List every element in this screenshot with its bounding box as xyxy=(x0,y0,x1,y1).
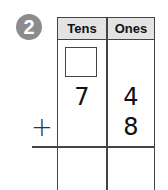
sum-ones-answer[interactable] xyxy=(107,157,155,187)
header-tens: Tens xyxy=(58,18,106,39)
top-ones-digit: 4 xyxy=(107,83,155,111)
place-value-table: Tens Ones 7 4 8 xyxy=(57,17,155,190)
sum-tens-answer[interactable] xyxy=(58,157,106,187)
plus-sign: + xyxy=(31,112,53,142)
top-tens-digit: 7 xyxy=(58,83,106,111)
bottom-ones-digit: 8 xyxy=(107,113,155,141)
header-ones: Ones xyxy=(108,18,154,39)
sum-line xyxy=(32,146,155,148)
problem-number-badge: 2 xyxy=(16,14,42,40)
regroup-box[interactable] xyxy=(65,47,97,77)
